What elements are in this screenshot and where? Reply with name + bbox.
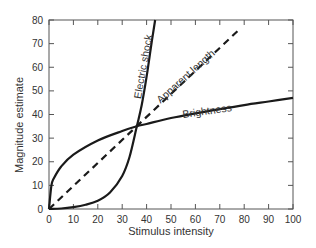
annotation-apparent-length: Apparent length bbox=[154, 47, 217, 106]
x-tick-label: 80 bbox=[239, 214, 251, 225]
annotation-brightness: Brightness bbox=[182, 101, 233, 120]
y-axis-label: Magnitude estimate bbox=[13, 77, 25, 173]
plot-frame bbox=[49, 20, 293, 209]
x-tick-label: 10 bbox=[68, 214, 80, 225]
series-brightness bbox=[49, 98, 293, 209]
series-group bbox=[49, 20, 293, 209]
y-tick-label: 20 bbox=[32, 156, 44, 167]
y-tick-label: 10 bbox=[32, 180, 44, 191]
y-tick-label: 80 bbox=[32, 15, 44, 26]
x-tick-label: 40 bbox=[141, 214, 153, 225]
x-tick-label: 20 bbox=[92, 214, 104, 225]
y-tick-label: 70 bbox=[32, 38, 44, 49]
y-tick-label: 0 bbox=[37, 204, 43, 215]
y-tick-label: 30 bbox=[32, 133, 44, 144]
y-tick-label: 50 bbox=[32, 85, 44, 96]
x-tick-label: 30 bbox=[117, 214, 129, 225]
x-tick-label: 60 bbox=[190, 214, 202, 225]
x-tick-label: 50 bbox=[165, 214, 177, 225]
annotations: Electric shockApparent lengthBrightness bbox=[131, 33, 232, 120]
x-tick-label: 100 bbox=[285, 214, 302, 225]
chart: 010203040506070809010001020304050607080 … bbox=[0, 0, 316, 248]
x-axis-label: Stimulus intensity bbox=[128, 225, 214, 237]
y-tick-label: 60 bbox=[32, 62, 44, 73]
x-tick-label: 70 bbox=[214, 214, 226, 225]
y-tick-label: 40 bbox=[32, 109, 44, 120]
x-tick-label: 0 bbox=[46, 214, 52, 225]
x-tick-label: 90 bbox=[263, 214, 275, 225]
annotation-electric-shock: Electric shock bbox=[131, 33, 154, 100]
